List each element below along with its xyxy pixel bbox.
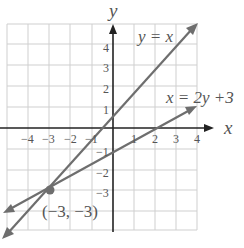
x-tick: 1 <box>131 132 137 146</box>
y-tick: −2 <box>96 166 109 180</box>
x-tick: 2 <box>152 132 158 146</box>
y-tick: 2 <box>103 82 109 96</box>
y-tick: 4 <box>103 41 109 55</box>
x-tick: −4 <box>21 132 34 146</box>
x-axis-label: x <box>223 117 233 138</box>
line2-label: x = 2y +3 <box>165 88 234 107</box>
x-tick: 4 <box>194 132 200 146</box>
y-axis-label: y <box>107 0 118 21</box>
y-tick: 1 <box>103 103 109 117</box>
x-tick: 3 <box>173 132 179 146</box>
x-tick: −1 <box>85 132 98 146</box>
x-axis-arrow-icon <box>204 124 214 132</box>
y-tick: −1 <box>96 145 109 159</box>
y-axis-arrow-icon <box>109 24 117 34</box>
line1-label: y = x <box>136 27 174 46</box>
x-tick: −2 <box>64 132 77 146</box>
intersection-point <box>46 186 55 195</box>
line-y-equals-x <box>2 23 198 239</box>
coordinate-plane: y x y = x x = 2y +3 (−3, −3) −4 −3 −2 −1… <box>0 0 244 248</box>
y-tick: −3 <box>96 186 109 200</box>
x-tick: −3 <box>42 132 55 146</box>
intersection-label: (−3, −3) <box>42 202 98 221</box>
x-tick-labels: −4 −3 −2 −1 1 2 3 4 <box>21 132 200 146</box>
y-tick: 3 <box>103 61 109 75</box>
